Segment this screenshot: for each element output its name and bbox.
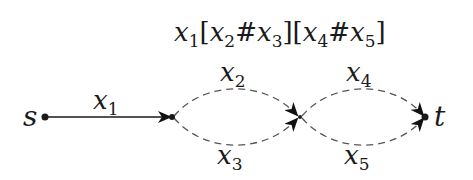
edge-label-x4: x4 — [346, 57, 372, 91]
edge-label-x5: x5 — [344, 140, 370, 174]
node-v2 — [298, 115, 302, 119]
formula-x4: x — [303, 17, 318, 47]
formula-sub-2: 2 — [224, 31, 235, 51]
formula-brackets-mid: ][ — [282, 17, 302, 47]
formula-sub-5: 5 — [365, 31, 376, 51]
node-label-t: t — [434, 100, 446, 133]
node-label-s: s — [23, 100, 37, 133]
edge-label-x2: x2 — [220, 57, 246, 91]
formula-bracket-open-1: [ — [200, 17, 210, 47]
node-t — [422, 114, 429, 121]
formula-sub-4: 4 — [317, 31, 328, 51]
formula-hash-1: # — [235, 17, 257, 47]
edge-e2 — [174, 89, 297, 116]
node-s — [42, 114, 49, 121]
series-parallel-diagram: x1[x2#x3][x4#x5] s t — [0, 0, 473, 180]
formula-sub-1: 1 — [189, 31, 200, 51]
formula-x2: x — [210, 17, 225, 47]
node-v1 — [169, 114, 175, 120]
formula-bracket-close: ] — [376, 17, 386, 47]
formula: x1[x2#x3][x4#x5] — [174, 17, 386, 51]
formula-hash-2: # — [328, 17, 350, 47]
formula-sub-3: 3 — [272, 31, 283, 51]
edge-e4 — [302, 89, 423, 116]
formula-x5: x — [350, 17, 365, 47]
formula-x1: x — [174, 17, 189, 47]
edge-label-x1: x1 — [93, 85, 119, 119]
edge-e3 — [174, 118, 297, 145]
svg-text:x1[x2#x3][x4#x5]: x1[x2#x3][x4#x5] — [174, 17, 386, 51]
formula-x3: x — [257, 17, 272, 47]
edge-e5 — [302, 118, 423, 145]
